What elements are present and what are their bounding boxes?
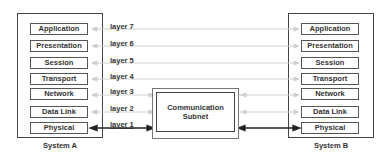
subnet-label-line2: Subnet <box>167 112 224 121</box>
communication-subnet-box: Communication Subnet <box>156 92 235 132</box>
layer-1-label: layer 1 <box>110 120 134 129</box>
layer-6-label: layer 6 <box>110 39 134 48</box>
layer-5-label: layer 5 <box>110 56 134 65</box>
layer-7-label: layer 7 <box>110 22 134 31</box>
layer-3-label: layer 3 <box>110 87 134 96</box>
layer-4-label: layer 4 <box>110 72 134 81</box>
layer-2-label: layer 2 <box>110 104 134 113</box>
subnet-label-line1: Communication <box>167 103 224 112</box>
